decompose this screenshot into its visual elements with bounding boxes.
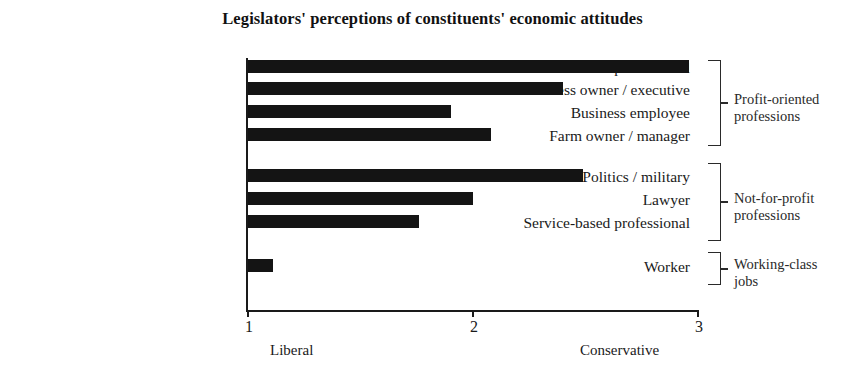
plot-area: 1 2 3 Liberal Conservative Technical pro… xyxy=(248,58,698,310)
bar-business-owner-executive xyxy=(248,82,563,95)
y-axis-line xyxy=(246,58,248,310)
axis-caption-liberal: Liberal xyxy=(270,342,313,359)
category-label: Worker xyxy=(390,259,690,274)
bar-politics-military xyxy=(248,169,583,182)
group-bracket-nub xyxy=(721,201,728,203)
group-label-line2: professions xyxy=(734,108,800,125)
group-bracket xyxy=(708,60,721,146)
chart-page: Legislators' perceptions of constituents… xyxy=(0,0,865,385)
x-tick-label-2: 2 xyxy=(454,318,494,336)
group-label-line2: jobs xyxy=(734,273,758,290)
x-tick-1 xyxy=(247,310,249,317)
group-label-line1: Profit-oriented xyxy=(734,91,819,108)
bar-lawyer xyxy=(248,192,473,205)
bar-technical-professional xyxy=(248,60,689,73)
x-tick-label-3: 3 xyxy=(679,318,719,336)
group-bracket-nub xyxy=(721,268,728,270)
group-bracket xyxy=(708,252,721,285)
x-tick-2 xyxy=(472,310,474,317)
category-label: Service-based professional xyxy=(390,215,690,230)
x-tick-3 xyxy=(697,310,699,317)
group-label-line1: Not-for-profit xyxy=(734,190,814,207)
group-bracket-nub xyxy=(721,102,728,104)
x-tick-label-1: 1 xyxy=(229,318,269,336)
bar-farm-owner-manager xyxy=(248,128,491,141)
bar-business-employee xyxy=(248,105,451,118)
axis-caption-conservative: Conservative xyxy=(580,342,659,359)
bar-service-based-professional xyxy=(248,215,419,228)
group-bracket xyxy=(708,163,721,241)
group-label-line2: professions xyxy=(734,207,800,224)
chart-title: Legislators' perceptions of constituents… xyxy=(0,9,865,29)
group-label-line1: Working-class xyxy=(734,256,817,273)
bar-worker xyxy=(248,259,273,272)
